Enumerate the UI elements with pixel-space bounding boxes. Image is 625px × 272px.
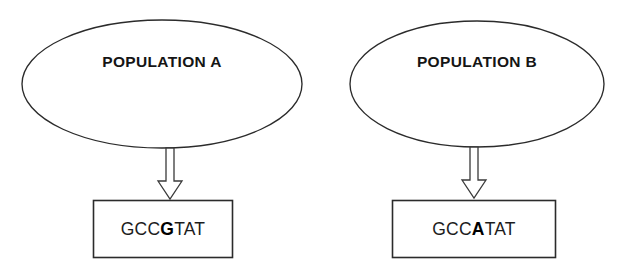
population-a-sequence-prefix: GCC [121,219,161,239]
population-b-sequence-prefix: GCC [432,219,472,239]
population-a-sequence-text: GCCGTAT [121,219,205,240]
population-a-down-arrow-icon [158,148,182,199]
population-b-sequence-text: GCCATAT [432,219,515,240]
population-b-down-arrow-icon [462,147,486,198]
population-b-label: POPULATION B [417,53,537,71]
population-b-sequence-variant: A [472,219,485,239]
population-a-sequence-suffix: TAT [174,219,205,239]
diagram-canvas: POPULATION A GCCGTAT POPULATION B GCCATA… [0,0,625,272]
diagram-vector-layer [0,0,625,272]
population-a-label: POPULATION A [102,53,222,71]
population-b-ellipse [350,21,604,147]
population-a-sequence-variant: G [160,219,174,239]
population-b-sequence-suffix: TAT [485,219,516,239]
population-a-ellipse [22,20,302,148]
